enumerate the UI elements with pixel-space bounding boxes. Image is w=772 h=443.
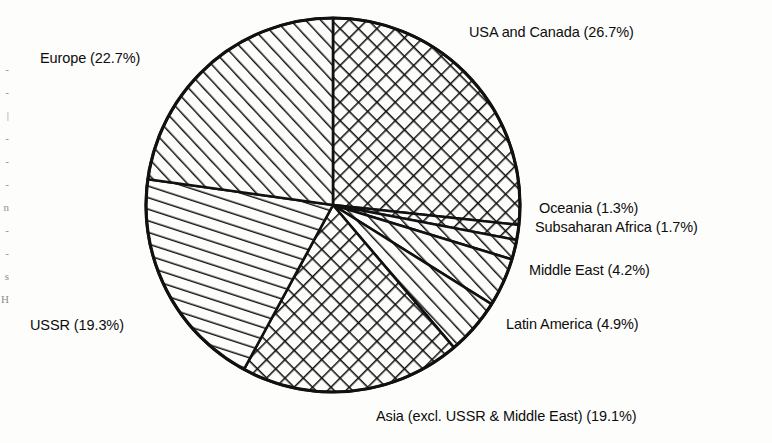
pie-label-latin-america: Latin America (4.9%) xyxy=(506,316,639,333)
pie-slices xyxy=(146,18,520,392)
pie-label-europe: Europe (22.7%) xyxy=(40,50,140,67)
pie-label-asia: Asia (excl. USSR & Middle East) (19.1%) xyxy=(376,408,636,425)
pie-label-ussr: USSR (19.3%) xyxy=(30,317,124,334)
pie-label-middle-east: Middle East (4.2%) xyxy=(529,262,650,279)
pie-label-usa-canada: USA and Canada (26.7%) xyxy=(469,24,634,41)
pie-slice xyxy=(333,18,520,225)
pie-label-subsaharan-africa: Subsaharan Africa (1.7%) xyxy=(535,219,698,236)
pie-slice xyxy=(148,18,333,205)
pie-label-oceania: Oceania (1.3%) xyxy=(539,200,638,217)
scan-edge-artifacts: - - | - - - n - - s H xyxy=(0,58,9,388)
pie-chart-figure: - - | - - - n - - s H Europe (22.7%) USA… xyxy=(0,0,772,443)
